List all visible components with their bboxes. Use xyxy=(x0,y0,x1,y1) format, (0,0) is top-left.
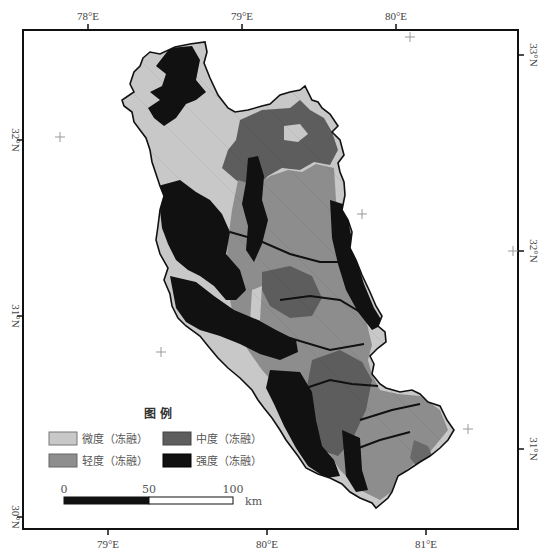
bottom-longitude-axis: 79°E 80°E 81°E xyxy=(97,529,437,550)
left-latitude-axis: 32°N 31°N 30°N xyxy=(10,128,23,528)
lat-label-right-2: 31°N xyxy=(528,437,540,460)
scale-label-100: 100 xyxy=(223,483,244,496)
lon-label-top-0: 78°E xyxy=(77,10,99,22)
legend-label-slight: 微度（冻融） xyxy=(82,432,148,446)
legend-label-severe: 强度（冻融） xyxy=(196,454,262,468)
lat-label-right-0: 33°N xyxy=(528,43,540,66)
legend-label-light: 轻度（冻融） xyxy=(82,454,148,468)
right-latitude-axis: 33°N 32°N 31°N xyxy=(518,43,540,460)
scale-label-50: 50 xyxy=(142,483,156,496)
lat-label-left-0: 32°N xyxy=(10,128,22,151)
top-longitude-axis: 78°E 79°E 80°E xyxy=(77,10,407,30)
legend-swatch-light xyxy=(49,454,77,467)
lat-label-right-1: 32°N xyxy=(528,239,540,262)
scale-unit: km xyxy=(245,495,263,508)
lon-label-bottom-2: 81°E xyxy=(415,538,437,550)
lon-label-top-1: 79°E xyxy=(231,10,253,22)
legend-swatch-slight xyxy=(49,432,77,445)
lat-label-left-2: 30°N xyxy=(10,505,22,528)
scale-label-0: 0 xyxy=(61,483,68,496)
legend-swatch-severe xyxy=(163,454,191,467)
legend-swatch-moderate xyxy=(163,432,191,445)
legend-title: 图 例 xyxy=(144,406,172,421)
lat-label-left-1: 31°N xyxy=(10,304,22,327)
freeze-thaw-erosion-map: 78°E 79°E 80°E 79°E 80°E 81°E 32°N 31°N … xyxy=(0,0,543,554)
lon-label-bottom-0: 79°E xyxy=(97,538,119,550)
legend-label-moderate: 中度（冻融） xyxy=(196,432,262,446)
lon-label-top-2: 80°E xyxy=(385,10,407,22)
lon-label-bottom-1: 80°E xyxy=(256,538,278,550)
